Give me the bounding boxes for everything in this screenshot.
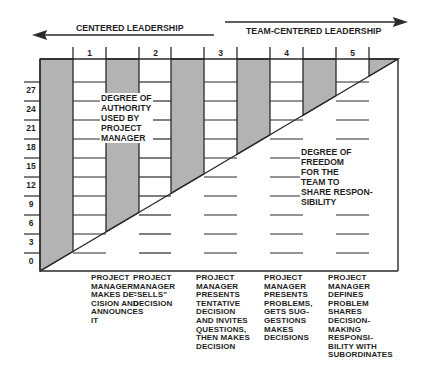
y-tick-9: 9 — [22, 199, 40, 209]
column-number-3: 3 — [204, 48, 237, 58]
team-centered-leadership-label: TEAM-CENTERED LEADERSHIP — [246, 26, 381, 36]
column-number-1: 1 — [73, 48, 106, 58]
column-number-4: 4 — [270, 48, 303, 58]
y-tick-18: 18 — [22, 142, 40, 152]
column-number-5: 5 — [336, 48, 369, 58]
column-number-2: 2 — [139, 48, 172, 58]
description-column-5: PROJECT MANAGER DEFINES PROBLEM SHARES D… — [328, 274, 393, 360]
y-tick-24: 24 — [22, 104, 40, 114]
y-tick-3: 3 — [22, 237, 40, 247]
shade-col-3a — [171, 59, 204, 193]
y-tick-15: 15 — [22, 161, 40, 171]
y-tick-0: 0 — [22, 256, 40, 266]
shade-col-4a — [237, 59, 270, 154]
team-centered-leadership-arrow — [225, 18, 406, 26]
shade-col-1a — [40, 59, 73, 271]
authority-region-label: DEGREE OF AUTHORITY USED BY PROJECT MANA… — [100, 93, 153, 143]
y-tick-21: 21 — [22, 123, 40, 133]
description-column-4: PROJECT MANAGER PRESENTS PROBLEMS, GETS … — [264, 274, 312, 343]
y-tick-6: 6 — [22, 218, 40, 228]
description-column-3: PROJECT MANAGER PRESENTS TENTATIVE DECIS… — [196, 274, 250, 351]
description-column-2: PROJECT MANAGER "SELLS" DECISION — [133, 274, 175, 308]
centered-leadership-label: CENTERED LEADERSHIP — [76, 23, 184, 33]
shade-col-2a — [106, 59, 139, 232]
shade-col-5a — [303, 59, 336, 115]
y-tick-27: 27 — [22, 85, 40, 95]
y-tick-12: 12 — [22, 180, 40, 190]
freedom-region-label: DEGREE OF FREEDOM FOR THE TEAM TO SHARE … — [300, 147, 374, 207]
